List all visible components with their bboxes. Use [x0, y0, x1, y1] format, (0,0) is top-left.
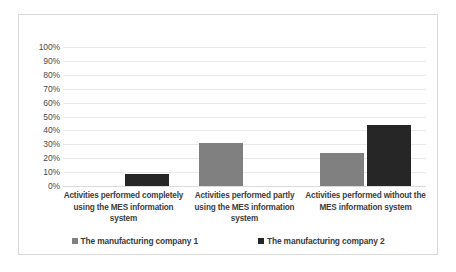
- y-axis-tick-label: 40%: [43, 126, 60, 135]
- y-axis-tick-label: 90%: [43, 56, 60, 65]
- legend-label: The manufacturing company 2: [267, 236, 384, 246]
- category-label-3: Activities performed without the MES inf…: [305, 190, 426, 213]
- y-axis-tick-label: 70%: [43, 84, 60, 93]
- y-axis: 100%90%80%70%60%50%40%30%20%10%0%: [19, 47, 63, 186]
- legend-swatch-icon: [258, 238, 264, 244]
- y-axis-tick-label: 0%: [48, 182, 60, 191]
- bar-series-group: [63, 47, 426, 186]
- y-axis-tick-label: 50%: [43, 112, 60, 121]
- legend-label: The manufacturing company 1: [81, 236, 198, 246]
- y-axis-tick-label: 30%: [43, 140, 60, 149]
- plot-area: 100%90%80%70%60%50%40%30%20%10%0% Activi…: [19, 15, 437, 254]
- axis-baseline: [63, 186, 426, 187]
- legend-item-1[interactable]: The manufacturing company 1: [72, 236, 198, 246]
- legend-item-2[interactable]: The manufacturing company 2: [258, 236, 384, 246]
- chart-container: 100%90%80%70%60%50%40%30%20%10%0% Activi…: [18, 14, 438, 255]
- y-axis-tick-label: 100%: [39, 43, 60, 52]
- chart-legend: The manufacturing company 1The manufactu…: [19, 233, 437, 249]
- y-axis-tick-label: 80%: [43, 70, 60, 79]
- y-axis-tick-label: 60%: [43, 98, 60, 107]
- category-label-2: Activities performed partly using the ME…: [184, 190, 305, 225]
- y-axis-tick-label: 20%: [43, 154, 60, 163]
- y-axis-tick-label: 10%: [43, 168, 60, 177]
- bar-series-1-category-3: [320, 153, 364, 186]
- bar-series-2-category-1: [125, 174, 169, 187]
- bar-series-2-category-3: [367, 125, 411, 186]
- legend-swatch-icon: [72, 238, 78, 244]
- x-axis-category-labels: Activities performed completely using th…: [63, 190, 426, 232]
- category-label-1: Activities performed completely using th…: [63, 190, 184, 225]
- bar-series-1-category-2: [199, 143, 243, 186]
